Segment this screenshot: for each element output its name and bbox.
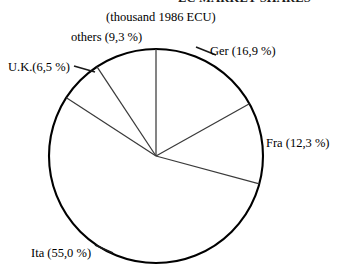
- slice-label-ger: Ger (16,9 %): [210, 45, 276, 58]
- slice-label-ita: Ita (55,0 %): [31, 247, 91, 260]
- slice-label-uk: U.K.(6,5 %): [8, 61, 70, 74]
- pie-chart-figure: EC MARKET SHARES (thousand 1986 ECU) oth…: [0, 0, 351, 280]
- leader-line-uk: [74, 66, 95, 72]
- slice-label-fra: Fra (12,3 %): [266, 137, 330, 150]
- slice-label-others: others (9,3 %): [71, 31, 142, 44]
